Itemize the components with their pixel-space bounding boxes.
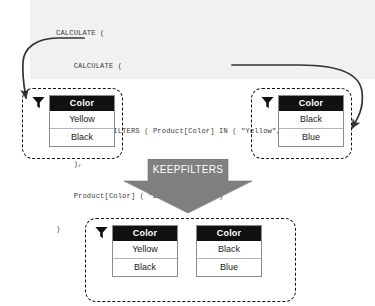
table-row: Yellow (50, 111, 114, 128)
table-row: Yellow (113, 241, 177, 258)
table-row: Black (279, 111, 343, 128)
code-line: CALCULATE ( (30, 61, 375, 72)
table-row: Black (113, 258, 177, 276)
dax-code-block: CALCULATE ( CALCULATE ( ..., KEEPFILTERS… (30, 0, 375, 79)
table-header-cell: Color (50, 96, 114, 111)
table-header-cell: Color (113, 226, 177, 241)
code-line: CALCULATE ( (30, 28, 375, 39)
diagram-canvas: CALCULATE ( CALCULATE ( ..., KEEPFILTERS… (0, 0, 375, 306)
table-row: Black (50, 128, 114, 146)
table-right: Color Black Blue (278, 95, 344, 147)
table-row: Black (197, 241, 261, 258)
table-row: Blue (197, 258, 261, 276)
table-row: Blue (279, 128, 343, 146)
table-result-left: Color Yellow Black (112, 225, 178, 277)
table-header-cell: Color (197, 226, 261, 241)
keepfilters-operator-label: KEEPFILTERS (124, 159, 252, 180)
table-result-right: Color Black Blue (196, 225, 262, 277)
filter-funnel-icon (94, 225, 109, 240)
table-header-cell: Color (279, 96, 343, 111)
filter-funnel-icon (260, 95, 275, 110)
table-left: Color Yellow Black (49, 95, 115, 147)
filter-funnel-icon (31, 95, 46, 110)
